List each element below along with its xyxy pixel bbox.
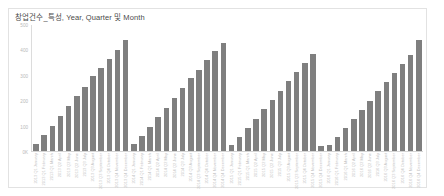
bar-slot[interactable] — [399, 25, 407, 151]
bar[interactable] — [212, 51, 218, 151]
bar[interactable] — [343, 128, 349, 151]
bar-slot[interactable] — [146, 25, 154, 151]
bar-slot[interactable] — [293, 25, 301, 151]
bar-slot[interactable] — [65, 25, 73, 151]
bar-slot[interactable] — [130, 25, 138, 151]
bar[interactable] — [261, 109, 267, 151]
bar-slot[interactable] — [228, 25, 236, 151]
bar[interactable] — [147, 127, 153, 151]
x-axis-tick: 2013 Q4 October — [105, 153, 113, 193]
bar-slot[interactable] — [317, 25, 325, 151]
bar[interactable] — [90, 76, 96, 151]
bar[interactable] — [204, 60, 210, 151]
bar-slot[interactable] — [81, 25, 89, 151]
x-axis-tick-label: 2016 Q3 August — [384, 153, 388, 182]
x-axis-tick-label: 2014 Q2 June — [172, 153, 176, 178]
bar-slot[interactable] — [40, 25, 48, 151]
bar-slot[interactable] — [203, 25, 211, 151]
bar[interactable] — [335, 137, 341, 151]
bar-slot[interactable] — [211, 25, 219, 151]
bar-slot[interactable] — [187, 25, 195, 151]
bar[interactable] — [302, 63, 308, 151]
bar[interactable] — [245, 128, 251, 151]
bar-slot[interactable] — [358, 25, 366, 151]
bar[interactable] — [139, 136, 145, 151]
bar-slot[interactable] — [105, 25, 113, 151]
bar-slot[interactable] — [162, 25, 170, 151]
bar[interactable] — [270, 100, 276, 151]
bar-slot[interactable] — [97, 25, 105, 151]
bar-slot[interactable] — [350, 25, 358, 151]
bar[interactable] — [196, 70, 202, 151]
bar[interactable] — [408, 55, 414, 151]
bar[interactable] — [74, 96, 80, 151]
bar[interactable] — [237, 137, 243, 151]
bar[interactable] — [294, 72, 300, 151]
bar-slot[interactable] — [219, 25, 227, 151]
bar-slot[interactable] — [48, 25, 56, 151]
bar-slot[interactable] — [73, 25, 81, 151]
bar-slot[interactable] — [170, 25, 178, 151]
bar-slot[interactable] — [382, 25, 390, 151]
x-axis-tick: 2013 Q1 January — [32, 153, 40, 193]
bar-slot[interactable] — [236, 25, 244, 151]
bar-slot[interactable] — [260, 25, 268, 151]
bar[interactable] — [416, 40, 422, 151]
bar[interactable] — [221, 43, 227, 151]
bar[interactable] — [164, 108, 170, 151]
bar[interactable] — [123, 40, 129, 151]
bar-slot[interactable] — [342, 25, 350, 151]
bar[interactable] — [155, 117, 161, 151]
bar-slot[interactable] — [268, 25, 276, 151]
bar[interactable] — [33, 144, 39, 151]
bar-slot[interactable] — [113, 25, 121, 151]
bar[interactable] — [351, 119, 357, 151]
bar[interactable] — [107, 59, 113, 151]
bar-slot[interactable] — [244, 25, 252, 151]
bar-slot[interactable] — [56, 25, 64, 151]
bar-slot[interactable] — [195, 25, 203, 151]
bar-slot[interactable] — [309, 25, 317, 151]
bar[interactable] — [115, 50, 121, 151]
bar-slot[interactable] — [284, 25, 292, 151]
bar-slot[interactable] — [374, 25, 382, 151]
bar-slot[interactable] — [325, 25, 333, 151]
bar[interactable] — [50, 126, 56, 151]
bar[interactable] — [229, 145, 235, 151]
bar-slot[interactable] — [32, 25, 40, 151]
bar-slot[interactable] — [252, 25, 260, 151]
bar[interactable] — [310, 54, 316, 151]
bar[interactable] — [318, 146, 324, 151]
bar[interactable] — [41, 135, 47, 151]
bar[interactable] — [98, 68, 104, 151]
bar[interactable] — [375, 91, 381, 151]
bar[interactable] — [66, 106, 72, 151]
bar[interactable] — [58, 116, 64, 151]
bar-slot[interactable] — [154, 25, 162, 151]
bar[interactable] — [253, 119, 259, 151]
bar[interactable] — [400, 64, 406, 151]
bar-slot[interactable] — [276, 25, 284, 151]
bar[interactable] — [131, 144, 137, 151]
bar[interactable] — [82, 87, 88, 152]
bar[interactable] — [359, 110, 365, 151]
bar[interactable] — [188, 78, 194, 151]
bar-slot[interactable] — [407, 25, 415, 151]
bar-slot[interactable] — [301, 25, 309, 151]
bar[interactable] — [278, 91, 284, 151]
bar-slot[interactable] — [366, 25, 374, 151]
bar[interactable] — [180, 88, 186, 151]
bar-slot[interactable] — [333, 25, 341, 151]
bar[interactable] — [327, 145, 333, 151]
bar-slot[interactable] — [138, 25, 146, 151]
bar-slot[interactable] — [122, 25, 130, 151]
bar[interactable] — [367, 101, 373, 151]
bar-slot[interactable] — [415, 25, 423, 151]
bar-slot[interactable] — [89, 25, 97, 151]
bar[interactable] — [172, 98, 178, 151]
bar[interactable] — [384, 82, 390, 151]
bar-slot[interactable] — [390, 25, 398, 151]
bar[interactable] — [286, 81, 292, 151]
bar-slot[interactable] — [179, 25, 187, 151]
bar[interactable] — [392, 73, 398, 151]
